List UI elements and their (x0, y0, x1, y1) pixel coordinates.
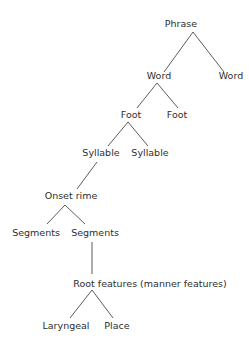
edge-word1-foot2 (157, 83, 178, 108)
node-foot2: Foot (167, 109, 188, 120)
edge-foot1-syllable2 (128, 122, 148, 146)
edges-group (47, 32, 224, 318)
node-place: Place (104, 320, 129, 331)
edge-syllable1-onsetrime (77, 162, 97, 189)
node-onsetrime: Onset rime (45, 190, 98, 201)
node-syllable2: Syllable (131, 147, 168, 158)
node-syllable1: Syllable (82, 147, 119, 158)
edge-foot1-syllable1 (108, 122, 128, 146)
edge-onsetrime-segments2 (65, 205, 85, 224)
node-laryngeal: Laryngeal (43, 320, 90, 331)
node-segments1: Segments (12, 227, 60, 238)
edge-root-laryngeal (70, 290, 92, 318)
edge-root-place (92, 290, 113, 318)
edge-phrase-word1 (164, 32, 193, 72)
node-word2: Word (219, 70, 243, 81)
nodes-group: PhraseWordWordFootFootSyllableSyllableOn… (12, 18, 243, 331)
node-phrase: Phrase (165, 18, 197, 29)
edge-word1-foot1 (137, 83, 157, 108)
node-root: Root features (manner features) (73, 278, 226, 289)
tree-diagram: PhraseWordWordFootFootSyllableSyllableOn… (0, 0, 249, 352)
edge-onsetrime-segments1 (47, 205, 65, 224)
node-foot1: Foot (121, 109, 142, 120)
node-segments2: Segments (71, 227, 119, 238)
edge-phrase-word2 (193, 32, 224, 72)
node-word1: Word (147, 70, 171, 81)
